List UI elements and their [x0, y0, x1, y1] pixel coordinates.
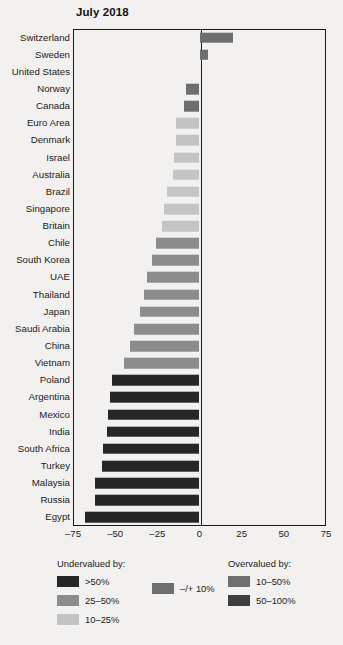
legend-swatch — [57, 576, 79, 587]
value-bar — [184, 101, 199, 112]
value-bar — [156, 238, 200, 249]
legend-group-overvalued: Overvalued by: 10–50% 50–100% — [228, 558, 296, 611]
x-tick-label: 0 — [197, 528, 202, 539]
value-bar — [103, 444, 199, 455]
bar-row: Brazil — [0, 183, 343, 200]
value-bar — [134, 324, 200, 335]
country-label: Euro Area — [27, 118, 70, 128]
legend-swatch — [228, 576, 250, 587]
bar-row: Britain — [0, 218, 343, 235]
legend-swatch — [152, 583, 174, 594]
value-bar — [200, 32, 234, 43]
bar-row: Euro Area — [0, 115, 343, 132]
bar-row: Vietnam — [0, 355, 343, 372]
legend-heading-undervalued: Undervalued by: — [57, 558, 125, 569]
value-bar — [173, 169, 200, 180]
value-bar — [186, 84, 199, 95]
value-bar — [162, 221, 199, 232]
legend-item: 10–25% — [57, 611, 125, 628]
legend-label: 25–50% — [85, 595, 119, 606]
x-tick-label: –75 — [65, 528, 81, 539]
country-label: Russia — [40, 495, 70, 505]
value-bar — [200, 49, 208, 60]
value-bar — [107, 426, 200, 437]
value-bar — [108, 409, 199, 420]
country-label: Singapore — [26, 204, 70, 214]
value-bar — [110, 392, 199, 403]
country-label: Turkey — [41, 461, 70, 471]
bar-row: Canada — [0, 98, 343, 115]
bar-row: China — [0, 337, 343, 354]
x-tick-label: –50 — [107, 528, 123, 539]
country-label: Switzerland — [20, 33, 70, 43]
country-label: South Africa — [18, 444, 70, 454]
value-bar — [102, 461, 200, 472]
value-bar — [130, 341, 199, 352]
country-label: Canada — [36, 101, 70, 111]
country-label: Japan — [44, 307, 70, 317]
country-label: Egypt — [45, 512, 70, 522]
country-label: Thailand — [33, 290, 70, 300]
country-label: Norway — [37, 84, 70, 94]
value-bar — [140, 306, 199, 317]
bar-row: Argentina — [0, 389, 343, 406]
bar-row: South Korea — [0, 252, 343, 269]
country-label: Brazil — [46, 187, 70, 197]
bar-row: United States — [0, 63, 343, 80]
value-bar — [152, 255, 199, 266]
country-label: India — [49, 427, 70, 437]
value-bar — [176, 118, 200, 129]
country-label: Malaysia — [32, 478, 70, 488]
bar-row: Poland — [0, 372, 343, 389]
bar-row: Australia — [0, 166, 343, 183]
country-label: Argentina — [29, 392, 70, 402]
country-label: China — [45, 341, 70, 351]
bar-row: Malaysia — [0, 475, 343, 492]
bar-row: Saudi Arabia — [0, 320, 343, 337]
value-bar — [174, 152, 199, 163]
bar-row: Russia — [0, 492, 343, 509]
bar-row: Singapore — [0, 200, 343, 217]
legend-item: >50% — [57, 573, 125, 590]
legend-label: –/+ 10% — [180, 583, 215, 594]
legend-item: 25–50% — [57, 592, 125, 609]
value-bar — [176, 135, 200, 146]
value-bar — [164, 204, 199, 215]
legend-swatch — [57, 595, 79, 606]
bar-row: Egypt — [0, 509, 343, 526]
country-label: Britain — [43, 221, 70, 231]
x-axis-ticks: –75–50–250255075 — [0, 528, 343, 544]
x-tick-label: –25 — [149, 528, 165, 539]
bar-rows-container: SwitzerlandSwedenUnited StatesNorwayCana… — [0, 0, 343, 497]
value-bar — [85, 512, 200, 523]
legend-swatch — [228, 595, 250, 606]
legend-label: 10–25% — [85, 614, 119, 625]
value-bar — [95, 495, 200, 506]
bar-row: Japan — [0, 303, 343, 320]
country-label: Denmark — [31, 135, 70, 145]
bar-row: South Africa — [0, 440, 343, 457]
value-bar — [124, 358, 200, 369]
legend-item: 10–50% — [228, 573, 296, 590]
country-label: Poland — [40, 375, 70, 385]
country-label: Vietnam — [35, 358, 70, 368]
bar-row: Sweden — [0, 46, 343, 63]
bar-row: Switzerland — [0, 29, 343, 46]
legend-group-undervalued: Undervalued by: >50% 25–50% 10–25% — [57, 558, 125, 630]
country-label: Chile — [48, 238, 70, 248]
country-label: Mexico — [39, 410, 70, 420]
bar-row: Chile — [0, 235, 343, 252]
bar-row: Mexico — [0, 406, 343, 423]
bar-row: Norway — [0, 80, 343, 97]
value-bar — [95, 478, 200, 489]
value-bar — [147, 272, 199, 283]
value-bar — [144, 289, 200, 300]
legend-label: 50–100% — [256, 595, 296, 606]
bar-row: Denmark — [0, 132, 343, 149]
bar-row: India — [0, 423, 343, 440]
x-tick-label: 75 — [321, 528, 332, 539]
legend-swatch — [57, 614, 79, 625]
chart-legend: Undervalued by: >50% 25–50% 10–25% –/+ 1… — [0, 558, 343, 643]
legend-item: 50–100% — [228, 592, 296, 609]
value-bar — [167, 187, 199, 198]
